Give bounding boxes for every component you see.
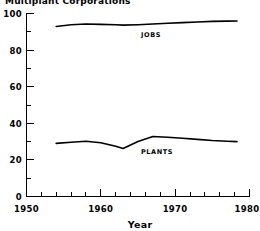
series-line-jobs: [56, 21, 237, 27]
y-label-100: 100: [3, 9, 22, 19]
axes-group: [27, 13, 250, 197]
series-line-plants: [56, 137, 237, 149]
axis-lines: [27, 13, 250, 197]
x-label-1950: 1950: [14, 204, 39, 214]
y-label-80: 80: [10, 46, 22, 56]
y-label-60: 60: [10, 82, 22, 92]
x-axis-major-ticks: [27, 189, 250, 197]
y-label-0: 0: [16, 192, 22, 202]
y-axis-minor-ticks: [27, 32, 32, 178]
x-label-1960: 1960: [88, 204, 113, 214]
y-axis-tick-labels: 100 80 60 40 20 0: [3, 9, 22, 202]
x-axis-minor-ticks: [41, 192, 234, 197]
x-label-1980: 1980: [235, 204, 260, 214]
y-label-20: 20: [10, 155, 22, 165]
x-label-1970: 1970: [163, 204, 188, 214]
series-label-plants: PLANTS: [141, 148, 173, 156]
chart-figure: Multiplant Corporations: [0, 0, 260, 231]
series-label-jobs: JOBS: [140, 31, 161, 39]
y-label-40: 40: [10, 119, 22, 129]
x-axis-title: Year: [127, 219, 153, 230]
line-chart-plot: 100 80 60 40 20 0 1950 1960 1970 1980 Ye…: [0, 0, 260, 231]
x-axis-tick-labels: 1950 1960 1970 1980: [14, 204, 259, 214]
